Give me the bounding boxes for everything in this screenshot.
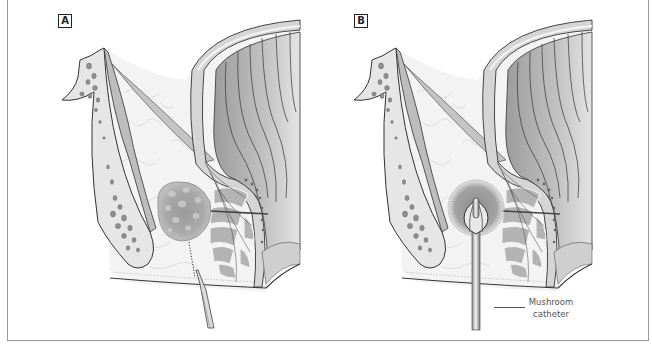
mushroom-catheter-label: Mushroom catheter <box>527 296 575 320</box>
callout-leader-line <box>494 307 525 308</box>
panel-b: B Mushroom catheter <box>326 0 652 347</box>
panel-label-b: B <box>354 14 368 28</box>
panel-b-illustration <box>326 0 652 347</box>
panel-a-illustration <box>0 0 326 347</box>
panel-a: A <box>0 0 326 347</box>
abscess-icon <box>158 182 211 241</box>
panel-label-a: A <box>58 14 72 28</box>
